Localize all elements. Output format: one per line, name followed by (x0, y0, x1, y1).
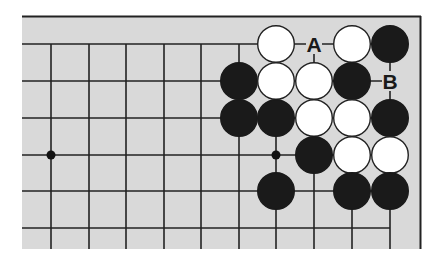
star-point-icon (47, 151, 56, 160)
go-board: AB (0, 0, 445, 258)
point-label-b: B (382, 70, 397, 93)
white-stone (296, 63, 333, 100)
black-stone (372, 26, 409, 63)
black-stone (258, 173, 295, 210)
black-stone (334, 173, 371, 210)
star-point-icon (272, 151, 281, 160)
black-stone (221, 100, 258, 137)
point-label-a: A (306, 33, 321, 56)
white-stone (334, 137, 371, 174)
black-stone (296, 137, 333, 174)
white-stone (334, 26, 371, 63)
black-stone (221, 63, 258, 100)
white-stone (258, 63, 295, 100)
black-stone (372, 173, 409, 210)
black-stone (258, 100, 295, 137)
white-stone (372, 137, 409, 174)
white-stone (334, 100, 371, 137)
white-stone (296, 100, 333, 137)
black-stone (372, 100, 409, 137)
black-stone (334, 63, 371, 100)
white-stone (258, 26, 295, 63)
